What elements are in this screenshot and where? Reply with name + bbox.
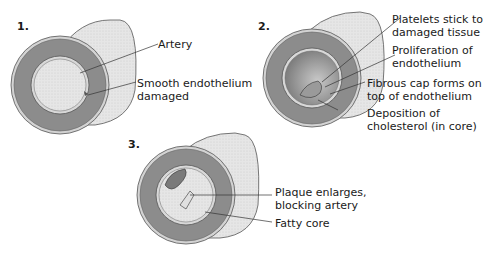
label-cholesterol-deposition: Deposition ofcholesterol (in core)	[367, 107, 477, 133]
label-fatty-core: Fatty core	[275, 217, 330, 230]
label-fibrous-cap: Fibrous cap forms ontop of endothelium	[367, 77, 482, 103]
label-proliferation: Proliferation ofendothelium	[392, 44, 473, 70]
artery-illustration-3	[137, 133, 272, 244]
label-plaque-enlarges: Plaque enlarges,blocking artery	[275, 186, 367, 212]
panel-number-1: 1.	[17, 20, 29, 33]
panel-number-2: 2.	[258, 20, 270, 33]
label-artery: Artery	[158, 38, 192, 51]
label-platelets: Platelets stick todamaged tissue	[392, 13, 483, 39]
panel-number-3: 3.	[128, 138, 140, 151]
label-smooth-endothelium-damaged: Smooth endotheliumdamaged	[137, 77, 252, 103]
artery-illustration-1	[11, 20, 158, 134]
